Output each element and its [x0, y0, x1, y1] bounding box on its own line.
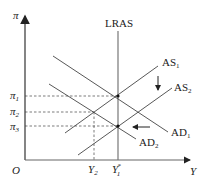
x-axis-label: Y: [190, 165, 198, 177]
ad2-label: AD2: [139, 136, 159, 150]
lras-label: LRAS: [105, 17, 133, 29]
equilibrium-point-3: [116, 124, 119, 127]
pi2-label: π2: [10, 105, 20, 119]
as1-curve: [65, 66, 158, 133]
as2-label: AS2: [174, 81, 192, 95]
ad1-label: AD1: [171, 126, 191, 140]
ad-as-diagram: π Y O π1 π2 π3 Y2 Y*1 LRAS AS1 AS2 AD1 A…: [0, 0, 208, 185]
y2-label: Y2: [88, 163, 98, 177]
y1-star-label: Y*1: [112, 162, 121, 178]
ad2-curve: [49, 84, 136, 139]
pi1-label: π1: [10, 89, 19, 103]
as1-label: AS1: [162, 56, 180, 70]
ad1-curve: [53, 56, 168, 132]
pi3-label: π3: [10, 120, 20, 134]
y-axis-label: π: [13, 9, 19, 21]
equilibrium-point-1: [116, 94, 119, 97]
origin-label: O: [12, 164, 20, 176]
